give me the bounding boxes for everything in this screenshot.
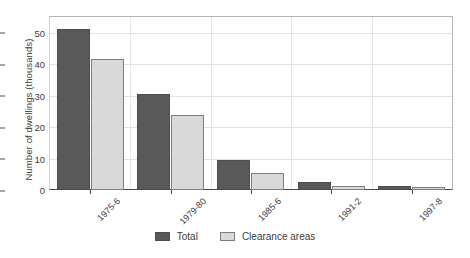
bar-clearance-areas <box>412 187 445 190</box>
y-axis-tick-label: 10 <box>5 153 45 164</box>
legend-label: Clearance areas <box>242 231 315 242</box>
bar-clearance-areas <box>171 115 204 190</box>
y-axis-tick-mark <box>0 64 5 65</box>
x-axis-tick-mark <box>90 190 91 194</box>
bar-total <box>217 160 250 190</box>
y-axis-tick-mark <box>0 190 5 191</box>
legend-item[interactable]: Total <box>155 231 198 242</box>
x-axis-tick-mark <box>171 190 172 194</box>
y-axis-tick-label: 20 <box>5 122 45 133</box>
x-axis-tick-label: 1991-2 <box>337 196 364 223</box>
bar-total <box>378 186 411 190</box>
bar-group <box>50 17 130 190</box>
legend-swatch-icon <box>220 232 235 241</box>
x-axis-tick-mark <box>251 190 252 194</box>
y-axis-tick-label: 50 <box>5 27 45 38</box>
y-axis-title: Number of dwellings (thousands) <box>23 10 34 210</box>
legend-item[interactable]: Clearance areas <box>220 231 315 242</box>
x-axis-tick-label: 1979-80 <box>177 196 207 226</box>
x-axis-tick-mark <box>412 190 413 194</box>
legend-label: Total <box>177 231 198 242</box>
y-axis-tick-mark <box>0 159 5 160</box>
bar-total <box>57 29 90 190</box>
bars-layer <box>50 17 452 190</box>
x-axis-tick-label: 1975-6 <box>95 196 122 223</box>
chart-legend: TotalClearance areas <box>0 231 470 242</box>
bar-clearance-areas <box>251 173 284 190</box>
bar-chart: Number of dwellings (thousands) 01020304… <box>0 0 470 258</box>
y-axis-tick-mark <box>0 96 5 97</box>
y-axis-tick-label: 40 <box>5 59 45 70</box>
bar-clearance-areas <box>91 59 124 190</box>
x-axis-tick-label: 1997-8 <box>417 196 444 223</box>
bar-group <box>211 17 291 190</box>
bar-group <box>130 17 210 190</box>
bar-total <box>298 182 331 190</box>
y-axis-tick-label: 30 <box>5 90 45 101</box>
x-axis-tick-label: 1985-6 <box>256 196 283 223</box>
y-axis-tick-mark <box>0 33 5 34</box>
legend-swatch-icon <box>155 232 170 241</box>
x-axis-tick-mark <box>331 190 332 194</box>
bar-clearance-areas <box>332 186 365 190</box>
y-axis-tick-mark <box>0 127 5 128</box>
bar-group <box>372 17 452 190</box>
bar-group <box>291 17 371 190</box>
bar-total <box>137 94 170 190</box>
y-axis-tick-label: 0 <box>5 185 45 196</box>
